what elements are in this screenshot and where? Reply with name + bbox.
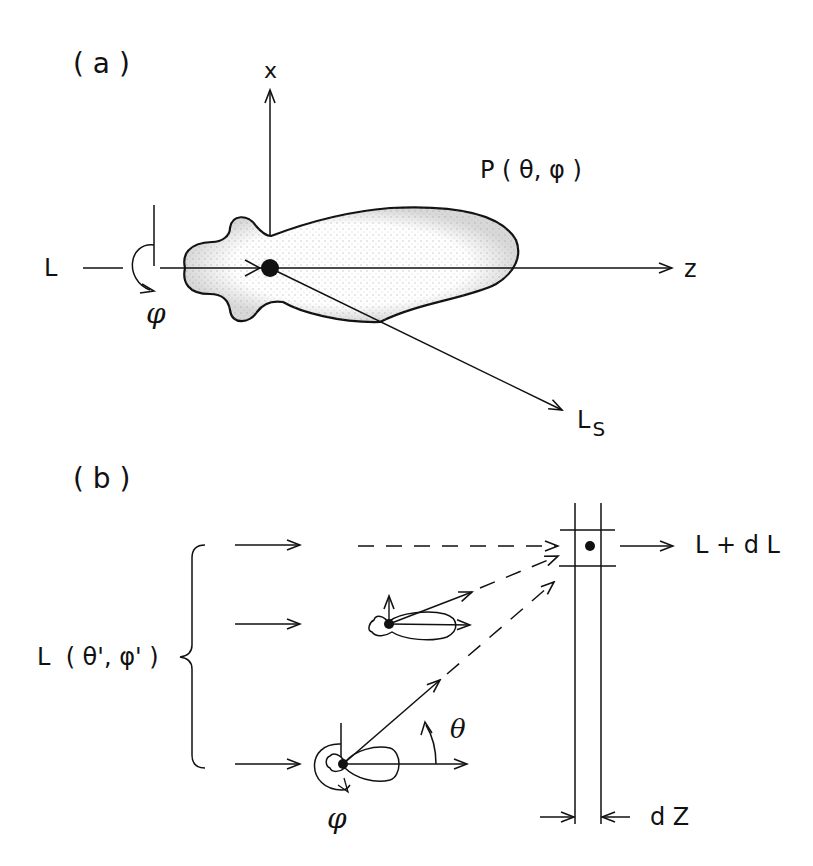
radiative-transfer-diagram: ( a ) x z L φ P ( θ, φ ) LS ( b ) L ( θ'…: [0, 0, 813, 866]
scattered-radiance-label: LS: [577, 408, 603, 432]
panel-a: [83, 90, 672, 410]
phi-label-a: φ: [146, 300, 166, 328]
small-lobe-middle: [369, 612, 456, 640]
z-axis-label: z: [684, 257, 697, 281]
panel-a-label: ( a ): [73, 50, 130, 78]
volume-element-point: [585, 541, 595, 551]
incident-radiance-field-label: L ( θ', φ' ): [37, 645, 159, 669]
theta-label: θ: [450, 716, 466, 742]
scattered-radiance-symbol: L: [577, 406, 590, 434]
output-radiance-label: L + d L: [695, 533, 780, 557]
scattered-radiance-subscript: S: [592, 417, 605, 441]
x-axis-label: x: [264, 60, 277, 82]
incident-radiance-label: L: [44, 256, 57, 280]
slab-thickness-label: d Z: [650, 805, 689, 829]
phase-function-label: P ( θ, φ ): [480, 158, 582, 182]
incident-brace: [180, 545, 205, 768]
panel-b: [180, 503, 673, 824]
phi-label-b: φ: [327, 805, 347, 833]
phi-rotation-arc: [132, 245, 154, 290]
scatterer-particle: [261, 259, 279, 277]
diagram-drawing: [0, 0, 813, 866]
panel-b-label: ( b ): [73, 465, 130, 493]
